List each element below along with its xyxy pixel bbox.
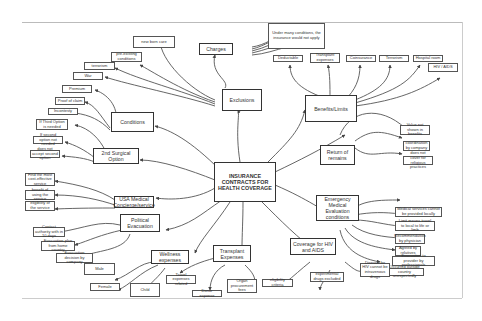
node-contact-authority[interactable]: Contact authority with in 10 days: [33, 227, 65, 237]
node-2nd-surgical-option[interactable]: 2nd Surgical Option: [93, 148, 139, 164]
node-limit-life-or-limb[interactable]: Limit means travel to local to life or l…: [395, 221, 435, 231]
node-deductable[interactable]: Deductable: [273, 55, 303, 62]
node-child[interactable]: Child: [130, 283, 160, 297]
node-war[interactable]: War: [73, 72, 103, 80]
node-coinsurance[interactable]: Coinsurance: [346, 55, 376, 62]
node-usa-medical-concierge[interactable]: USA Medical Concierge/service: [114, 196, 154, 208]
node-travel-expenses-related[interactable]: Travel expenses related: [166, 275, 196, 284]
node-hospital-room[interactable]: Hospital room: [413, 55, 443, 62]
node-exclusions[interactable]: Exclusions: [222, 89, 262, 111]
node-donor-expense[interactable]: Donor expense: [192, 290, 222, 297]
node-transplant-expenses-benefit[interactable]: Transplant expenses: [310, 53, 340, 63]
node-incontesty[interactable]: Incontesty: [48, 108, 78, 115]
node-terrorism-exclusion[interactable]: terrorism: [84, 62, 115, 70]
node-return-of-remains[interactable]: Return of remains: [320, 145, 355, 165]
node-eligibility-of-service[interactable]: eligibility of the service: [25, 201, 55, 211]
node-evacuation-decision[interactable]: Evacuation decision by company: [56, 253, 93, 263]
node-second-option-not-needed[interactable]: If second option not needed: [33, 136, 63, 144]
node-experimental-drugs[interactable]: experimental drugs excluded: [310, 272, 344, 282]
node-services-not-local[interactable]: Medical services cannot be provided loca…: [395, 207, 442, 217]
node-political-evacuation[interactable]: Political Evacuation: [120, 214, 160, 232]
node-recommendation-physician[interactable]: Recommendation by physician: [395, 234, 425, 244]
center-node[interactable]: INSURANCE CONTRACTS FOR HEALTH COVERAGE: [214, 162, 276, 202]
node-religious-practices[interactable]: does not cover for religious practices: [403, 156, 433, 165]
node-outside-country[interactable]: Occurred outside country unexpectedly: [385, 268, 424, 276]
node-coverage-hiv-aids[interactable]: Coverage for HIV and AIDS: [290, 238, 336, 255]
node-conditions[interactable]: Conditions: [111, 112, 154, 132]
node-pre-existing-conditions[interactable]: pre-existing conditions: [111, 52, 142, 62]
node-disease-hiv-intravenous[interactable]: Disease for HIV cannot be intravenous dr…: [360, 263, 390, 277]
node-terrorism-benefit[interactable]: Terrorism: [379, 55, 409, 62]
node-proof-of-claim[interactable]: Proof of claim: [55, 97, 85, 105]
node-male[interactable]: Male: [84, 263, 115, 275]
node-emergency-medical-evaluation[interactable]: Emergency Medical Evaluation conditions: [316, 195, 359, 221]
node-hiv-aids[interactable]: HIV / AIDS: [428, 63, 458, 72]
node-organ-procurement-fees[interactable]: Organ procurement fees: [227, 279, 257, 293]
node-female[interactable]: Female: [90, 283, 120, 291]
node-benefit-of-using-service[interactable]: benefit of using the service: [25, 190, 55, 200]
node-new-born-care[interactable]: new born care: [133, 36, 175, 48]
node-value-not-shown[interactable]: Value not shown in benefits: [400, 125, 430, 135]
node-benefits-limits[interactable]: Benefits/Limits: [305, 95, 357, 122]
node-cost-effective-service[interactable]: Find the most cost-effective service: [25, 173, 55, 186]
node-premium[interactable]: Premium: [62, 85, 92, 93]
node-wellness-expenses[interactable]: Wellness expenses: [151, 250, 189, 264]
node-eligibility-criteria[interactable]: eligibility criteria: [262, 279, 293, 287]
node-transplant-expenses[interactable]: Transplant Expenses: [213, 245, 251, 262]
node-under-many-conditions[interactable]: Under many conditions, the insurance wou…: [268, 23, 325, 49]
node-charges[interactable]: Charges: [199, 43, 233, 55]
node-not-accept-second-option[interactable]: does not accept second option: [30, 150, 60, 158]
node-third-option-needed[interactable]: If Third Option is needed: [36, 119, 68, 130]
